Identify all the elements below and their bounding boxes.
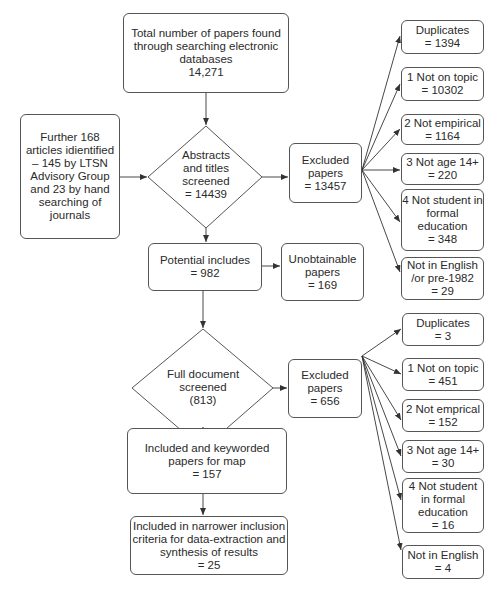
node-text: = 25	[198, 559, 221, 572]
node-text: synthesis of results	[160, 546, 258, 559]
node-text: 2 Not empirical	[404, 117, 481, 130]
node-text: = 451	[428, 375, 457, 388]
node-text: Included and keyworded	[145, 442, 270, 455]
node-text: through searching electronic	[134, 40, 278, 53]
node-text: (813)	[190, 394, 217, 407]
node-text: 3 Not age 14+	[406, 156, 479, 169]
node-text: = 982	[190, 267, 219, 280]
node-text: Not in English	[407, 259, 478, 272]
node-text: = 16	[432, 519, 455, 532]
arrow-excl2-duplicates	[362, 329, 401, 356]
node-narrower-inclusion: Included in narrower inclusion criteria …	[130, 516, 288, 575]
node-text: 4 Not student in	[402, 194, 483, 207]
node-text: and titles	[183, 162, 229, 175]
node-text: = 4	[435, 562, 451, 575]
node-abstracts-screened: Abstracts and titles screened = 14439	[160, 140, 252, 210]
node-text: papers	[308, 167, 343, 180]
exclusion-2-not-english: Not in English = 4	[402, 545, 484, 579]
exclusion-1-not-english: Not in English /or pre-1982 = 29	[401, 257, 484, 300]
node-text: journals	[50, 209, 90, 222]
node-included-keyworded: Included and keyworded papers for map = …	[127, 428, 287, 494]
exclusion-2-duplicates: Duplicates = 3	[402, 313, 484, 346]
node-text: = 220	[428, 169, 457, 182]
node-text: Total number of papers found	[131, 27, 281, 40]
node-text: = 29	[431, 285, 454, 298]
exclusion-2-not-empirical: 2 Not emprical = 152	[402, 399, 484, 432]
arrow-excl1-not-on-topic	[362, 84, 400, 170]
node-text: in formal	[421, 493, 465, 506]
node-text: Full document	[167, 368, 239, 381]
node-text: Duplicates	[416, 317, 470, 330]
node-text: education	[418, 506, 468, 519]
node-text: = 13457	[305, 180, 347, 193]
node-further-articles: Further 168 articles idientified – 145 b…	[20, 114, 120, 239]
arrow-excl1-not-english	[362, 170, 400, 272]
node-text: Abstracts	[182, 149, 230, 162]
node-text: = 1394	[425, 37, 461, 50]
node-text: databases	[179, 53, 232, 66]
node-unobtainable: Unobtainable papers = 169	[281, 243, 364, 301]
node-text: searching of	[39, 196, 102, 209]
node-text: Potential includes	[160, 254, 250, 267]
node-text: = 348	[428, 233, 457, 246]
exclusion-1-not-empirical: 2 Not empirical = 1164	[401, 114, 484, 145]
node-text: 14,271	[188, 66, 223, 79]
exclusion-1-not-student: 4 Not student in formal education = 348	[401, 189, 484, 251]
node-text: = 169	[308, 279, 337, 292]
node-total-found: Total number of papers found through sea…	[123, 13, 289, 93]
exclusion-1-duplicates: Duplicates = 1394	[401, 20, 484, 54]
node-text: Advisory Group	[30, 170, 109, 183]
node-text: education	[418, 220, 468, 233]
arrow-excl1-not-student	[362, 170, 400, 222]
node-text: screened	[179, 381, 226, 394]
node-text: = 3	[435, 330, 451, 343]
node-text: Duplicates	[416, 24, 470, 37]
arrow-excl2-not-english	[362, 356, 401, 550]
node-text: Excluded	[301, 369, 348, 382]
node-text: 2 Not emprical	[406, 403, 480, 416]
node-text: papers	[305, 266, 340, 279]
exclusion-1-not-age: 3 Not age 14+ = 220	[401, 153, 484, 185]
node-text: 1 Not on topic	[408, 362, 479, 375]
node-excluded-1: Excluded papers = 13457	[289, 143, 362, 203]
node-text: formal	[427, 207, 459, 220]
node-text: Further 168	[40, 131, 99, 144]
exclusion-2-not-on-topic: 1 Not on topic = 451	[402, 358, 484, 391]
node-text: = 656	[310, 395, 339, 408]
node-text: criteria for data-extraction and	[133, 533, 286, 546]
node-text: = 30	[432, 457, 455, 470]
node-text: = 14439	[185, 188, 227, 201]
node-text: /or pre-1982	[411, 272, 474, 285]
exclusion-1-not-on-topic: 1 Not on topic = 10302	[401, 67, 484, 101]
node-text: 1 Not on topic	[407, 71, 478, 84]
node-text: Excluded	[302, 154, 349, 167]
node-text: = 152	[428, 416, 457, 429]
node-full-document-screened: Full document screened (813)	[150, 362, 256, 412]
node-text: = 157	[192, 468, 221, 481]
node-text: 3 Not age 14+	[407, 444, 480, 457]
node-potential-includes: Potential includes = 982	[148, 243, 262, 291]
node-text: and 23 by hand	[30, 183, 109, 196]
node-excluded-2: Excluded papers = 656	[288, 359, 362, 418]
node-text: Unobtainable	[289, 253, 357, 266]
node-text: = 1164	[425, 130, 460, 143]
node-text: papers	[307, 382, 342, 395]
node-text: – 145 by LTSN	[32, 157, 108, 170]
exclusion-2-not-age: 3 Not age 14+ = 30	[402, 440, 484, 473]
node-text: articles idientified	[26, 144, 114, 157]
arrow-excl2-not-empirical	[362, 356, 401, 420]
node-text: screened	[182, 175, 229, 188]
exclusion-2-not-student: 4 Not student in formal education = 16	[402, 478, 484, 533]
node-text: papers for map	[168, 455, 245, 468]
node-text: 4 Not student	[409, 480, 477, 493]
node-text: Included in narrower inclusion	[133, 520, 285, 533]
node-text: Not in English	[408, 549, 479, 562]
arrow-excl2-not-student	[362, 356, 401, 500]
node-text: = 10302	[422, 84, 464, 97]
